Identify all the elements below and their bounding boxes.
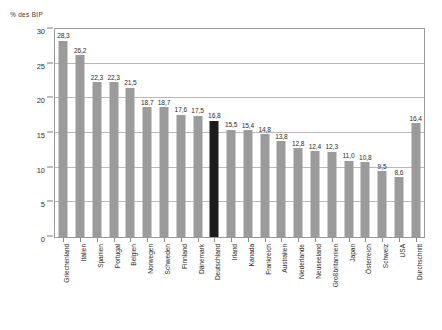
x-axis-tick-mark (332, 238, 333, 242)
x-axis-category: Niederlande (290, 240, 307, 328)
bar-value-label: 13,8 (275, 133, 287, 140)
bar (92, 82, 101, 237)
x-axis-category: Irland (223, 240, 240, 328)
x-axis-category: Belgien (122, 240, 139, 328)
x-axis-tick-mark (130, 238, 131, 242)
bar-value-label: 22,3 (91, 74, 103, 81)
bar-chart: % des BIP 051015202530 28,326,222,322,32… (0, 0, 442, 330)
x-axis-tick-label: Irland (231, 244, 238, 260)
bar-slot: 15,5 (223, 29, 240, 237)
x-axis-category: Japan (340, 240, 357, 328)
x-axis-tick-label: Italien (80, 244, 87, 261)
x-axis: GriechenlandItalienSpanienPortugalBelgie… (55, 240, 424, 328)
bar (344, 161, 353, 237)
x-axis-category: Durchschnitt (407, 240, 424, 328)
bar-value-label: 18,7 (158, 99, 170, 106)
y-axis-tick-mark (47, 28, 53, 29)
x-axis-category: Schweiz (374, 240, 391, 328)
y-axis-tick-mark (47, 166, 53, 167)
bar-slot: 15,4 (240, 29, 257, 237)
bar-slot: 8,6 (390, 29, 407, 237)
x-axis-tick-mark (80, 238, 81, 242)
bar (243, 130, 252, 237)
bar (109, 82, 118, 237)
x-axis-tick-mark (147, 238, 148, 242)
bar-slot: 18,7 (156, 29, 173, 237)
bar-value-label: 14,8 (258, 126, 270, 133)
x-axis-tick-mark (164, 238, 165, 242)
x-axis-tick-label: Großbritannien (332, 244, 339, 287)
x-axis-tick-mark (315, 238, 316, 242)
x-axis-category: Deutschland (206, 240, 223, 328)
x-axis-tick-mark (181, 238, 182, 242)
x-axis-tick-label: Dänemark (198, 244, 205, 274)
x-axis-tick-label: Griechenland (63, 244, 70, 283)
bar-slot: 17,6 (172, 29, 189, 237)
x-axis-tick-mark (298, 238, 299, 242)
bar-slot: 12,4 (307, 29, 324, 237)
x-axis-category: Schweden (156, 240, 173, 328)
bar-slot: 12,3 (323, 29, 340, 237)
x-axis-category: Kanada (240, 240, 257, 328)
x-axis-tick-label: Deutschland (214, 244, 221, 280)
bar (160, 107, 169, 237)
bar-value-label: 18,7 (141, 99, 153, 106)
x-axis-category: Italien (72, 240, 89, 328)
x-axis-tick-mark (399, 238, 400, 242)
y-axis-tick-mark (47, 97, 53, 98)
bar-slot: 21,5 (122, 29, 139, 237)
x-axis-tick-mark (97, 238, 98, 242)
x-axis-category: Norwegen (139, 240, 156, 328)
bar (193, 116, 202, 237)
x-axis-category: Österreich (357, 240, 374, 328)
x-axis-tick-label: Portugal (114, 244, 121, 268)
x-axis-category: Portugal (105, 240, 122, 328)
bar-value-label: 22,3 (107, 74, 119, 81)
bar-value-label: 15,5 (225, 121, 237, 128)
y-axis-tick-mark (47, 62, 53, 63)
bar (361, 162, 370, 237)
bar (260, 134, 269, 237)
bar-value-label: 28,3 (57, 32, 69, 39)
x-axis-tick-label: Frankreich (265, 244, 272, 275)
bar-value-label: 16,4 (409, 115, 421, 122)
bar (76, 55, 85, 237)
x-axis-tick-mark (416, 238, 417, 242)
x-axis-category: Frankreich (256, 240, 273, 328)
x-axis-category: Großbritannien (323, 240, 340, 328)
bar (378, 171, 387, 237)
x-axis-tick-label: Australien (281, 244, 288, 273)
y-axis-tick-label: 30 (37, 27, 45, 29)
y-axis-tick-mark (47, 236, 53, 237)
x-axis-tick-label: Schweden (164, 244, 171, 274)
x-axis-tick-label: Durchschnitt (416, 244, 423, 280)
bar-slot: 10,8 (357, 29, 374, 237)
y-axis-title: % des BIP (10, 11, 43, 18)
bar (59, 41, 68, 237)
bar-value-label: 15,4 (242, 122, 254, 129)
bar-value-label: 21,5 (124, 79, 136, 86)
x-axis-tick-label: Kanada (248, 244, 255, 266)
y-axis-tick-label: 20 (37, 96, 45, 98)
bar-value-label: 12,8 (292, 140, 304, 147)
bar-slot: 22,3 (89, 29, 106, 237)
x-axis-tick-mark (231, 238, 232, 242)
bar (176, 115, 185, 237)
bar-value-label: 12,3 (326, 143, 338, 150)
x-axis-tick-label: USA (399, 244, 406, 257)
bar-value-label: 11,0 (343, 152, 355, 159)
x-axis-tick-label: Spanien (97, 244, 104, 268)
bar-value-label: 8,6 (394, 169, 403, 176)
x-axis-tick-mark (114, 238, 115, 242)
y-axis-tick-label: 25 (37, 62, 45, 64)
bar-slot: 13,8 (273, 29, 290, 237)
x-axis-category: Australien (273, 240, 290, 328)
bar-slot: 16,8 (206, 29, 223, 237)
x-axis-tick-label: Norwegen (147, 244, 154, 274)
bar-value-label: 12,4 (309, 143, 321, 150)
bar (210, 121, 219, 237)
x-axis-category: Neuseeland (307, 240, 324, 328)
y-axis-tick-label: 5 (41, 200, 45, 202)
x-axis-category: Griechenland (55, 240, 72, 328)
bar (394, 177, 403, 237)
